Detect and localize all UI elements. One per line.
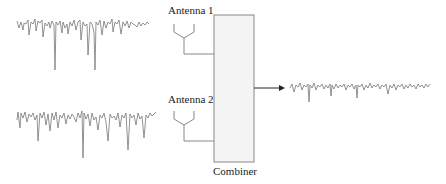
antenna-1-symbol xyxy=(174,24,214,54)
combiner-box xyxy=(214,15,254,162)
antenna-2-label: Antenna 2 xyxy=(168,93,214,105)
combiner-label: Combiner xyxy=(213,165,257,177)
antenna-2-symbol xyxy=(174,111,214,141)
signal-waveform-2 xyxy=(17,111,156,158)
signal-waveform-1 xyxy=(17,19,149,70)
combined-signal-waveform xyxy=(290,83,430,102)
output-arrow xyxy=(254,85,285,91)
antenna-1-label: Antenna 1 xyxy=(168,4,214,16)
diversity-diagram xyxy=(0,0,446,184)
